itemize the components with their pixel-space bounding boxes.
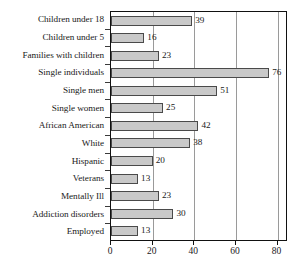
y-axis-label-african-american: African American bbox=[0, 117, 108, 135]
bar-value-label: 39 bbox=[195, 16, 204, 25]
bar-value-label: 13 bbox=[141, 174, 150, 183]
bar-value-label: 51 bbox=[220, 86, 229, 95]
bar-row: 25 bbox=[111, 100, 286, 118]
y-axis-label-children-under-5: Children under 5 bbox=[0, 29, 108, 47]
y-axis-label-single-women: Single women bbox=[0, 99, 108, 117]
y-axis-label-mentally-ill: Mentally Ill bbox=[0, 188, 108, 206]
y-axis-label-single-men: Single men bbox=[0, 82, 108, 100]
bar-row: 20 bbox=[111, 152, 286, 170]
bar-value-label: 23 bbox=[162, 51, 171, 60]
bar-children-under-5 bbox=[111, 33, 144, 43]
bar-children-under-18 bbox=[111, 16, 192, 26]
bar-value-label: 13 bbox=[141, 227, 150, 236]
bar-row: 38 bbox=[111, 135, 286, 153]
bar-row: 30 bbox=[111, 205, 286, 223]
bar-single-individuals bbox=[111, 68, 269, 78]
y-axis-label-white: White bbox=[0, 135, 108, 153]
x-axis-tick-label-80: 80 bbox=[272, 247, 282, 257]
bar-value-label: 38 bbox=[193, 139, 202, 148]
bar-families-with-children bbox=[111, 51, 159, 61]
bar-single-women bbox=[111, 103, 163, 113]
x-axis-tick-labels: 020406080 bbox=[110, 247, 287, 261]
y-axis-label-addiction-disorders: Addiction disorders bbox=[0, 206, 108, 224]
bar-row: 23 bbox=[111, 187, 286, 205]
bar-value-label: 30 bbox=[176, 209, 185, 218]
bar-hispanic bbox=[111, 156, 153, 166]
bar-single-men bbox=[111, 86, 217, 96]
bar-row: 39 bbox=[111, 12, 286, 30]
x-axis-tick-label-40: 40 bbox=[189, 247, 199, 257]
bar-chart: Children under 18 Children under 5 Famil… bbox=[0, 0, 302, 277]
bar-row: 51 bbox=[111, 82, 286, 100]
x-axis-tick-label-20: 20 bbox=[147, 247, 157, 257]
plot-area: 39162376512542382013233013 bbox=[110, 11, 287, 241]
bar-value-label: 76 bbox=[272, 69, 281, 78]
x-axis-tick-20 bbox=[152, 241, 153, 245]
y-axis-label-veterans: Veterans bbox=[0, 170, 108, 188]
x-axis-tick-80 bbox=[277, 241, 278, 245]
bar-addiction-disorders bbox=[111, 209, 173, 219]
x-axis-tick-40 bbox=[193, 241, 194, 245]
bar-row: 42 bbox=[111, 117, 286, 135]
bar-value-label: 25 bbox=[166, 104, 175, 113]
x-axis-tick-label-0: 0 bbox=[108, 247, 113, 257]
bar-value-label: 42 bbox=[201, 121, 210, 130]
x-axis-tick-0 bbox=[110, 241, 111, 245]
bars-layer: 39162376512542382013233013 bbox=[111, 12, 286, 240]
bar-employed bbox=[111, 226, 138, 236]
bar-value-label: 20 bbox=[156, 156, 165, 165]
bar-row: 23 bbox=[111, 47, 286, 65]
bar-row: 76 bbox=[111, 65, 286, 83]
y-axis-label-single-individuals: Single individuals bbox=[0, 64, 108, 82]
bar-value-label: 23 bbox=[162, 191, 171, 200]
y-axis-label-employed: Employed bbox=[0, 223, 108, 241]
bar-row: 13 bbox=[111, 170, 286, 188]
bar-african-american bbox=[111, 121, 198, 131]
x-axis-tick-60 bbox=[235, 241, 236, 245]
x-axis-tick-label-60: 60 bbox=[230, 247, 240, 257]
y-axis-label-children-under-18: Children under 18 bbox=[0, 11, 108, 29]
bar-mentally-ill bbox=[111, 191, 159, 201]
bar-row: 13 bbox=[111, 222, 286, 240]
y-axis-label-hispanic: Hispanic bbox=[0, 153, 108, 171]
bar-value-label: 16 bbox=[147, 34, 156, 43]
bar-white bbox=[111, 138, 190, 148]
bar-veterans bbox=[111, 174, 138, 184]
bar-row: 16 bbox=[111, 30, 286, 48]
y-axis-category-labels: Children under 18 Children under 5 Famil… bbox=[0, 11, 108, 241]
y-axis-label-families-with-children: Families with children bbox=[0, 46, 108, 64]
